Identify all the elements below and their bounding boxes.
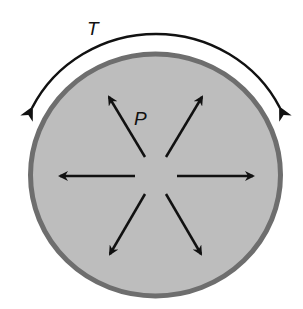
tension-label: T bbox=[87, 18, 100, 39]
pressure-label: P bbox=[134, 108, 147, 129]
pressure-vessel-diagram: T P bbox=[0, 0, 303, 309]
